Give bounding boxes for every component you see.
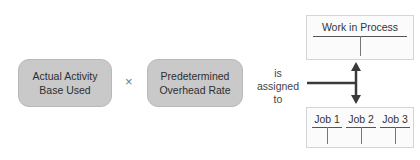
assignment-arrows-icon	[0, 0, 420, 160]
